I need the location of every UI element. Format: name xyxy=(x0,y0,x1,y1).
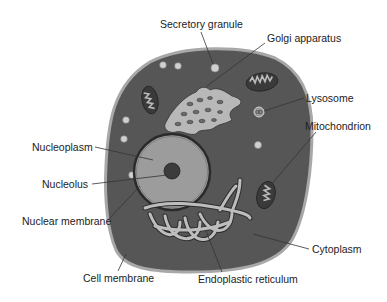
label-nucleoplasm: Nucleoplasm xyxy=(32,141,93,153)
label-mitochondrion: Mitochondrion xyxy=(305,120,371,132)
label-golgi-apparatus: Golgi apparatus xyxy=(267,32,341,44)
lysosome xyxy=(254,107,264,117)
label-cytoplasm: Cytoplasm xyxy=(312,243,362,255)
label-cell-membrane: Cell membrane xyxy=(83,272,154,284)
nucleolus-shape xyxy=(164,163,180,179)
label-lysosome: Lysosome xyxy=(306,92,353,104)
label-nuclear-membrane: Nuclear membrane xyxy=(22,215,111,227)
label-endoplastic-reticulum: Endoplastic reticulum xyxy=(198,273,298,285)
nucleus xyxy=(134,134,210,210)
label-secretory-granule: Secretory granule xyxy=(160,18,243,30)
label-nucleolus: Nucleolus xyxy=(42,178,88,190)
